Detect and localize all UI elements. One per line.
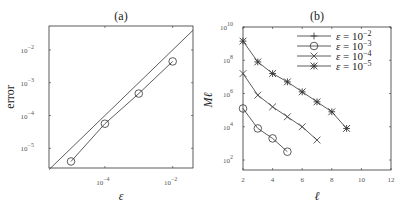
panel-b-x-ticks: 24681012 (241, 27, 395, 184)
x-marker (314, 137, 321, 144)
panel-b-M-vs-level: (b) 24681012 1010108106104102 ε = 10−2ε … (201, 9, 395, 203)
x-tick-label: 10 (358, 176, 366, 184)
panel-a-title: (a) (114, 9, 127, 23)
y-tick-label: 10−5 (21, 142, 34, 153)
y-tick-label: 108 (223, 54, 233, 65)
panel-a-y-label: error (3, 85, 17, 108)
y-tick-label: 1010 (220, 21, 233, 32)
y-tick-label: 10−3 (21, 77, 34, 88)
x-tick-label: 4 (271, 176, 275, 184)
y-tick-label: 102 (223, 154, 233, 165)
panel-a-x-label: ε (119, 189, 124, 203)
panel-a-series (49, 30, 193, 169)
y-tick-label: 104 (223, 121, 233, 132)
y-tick-label: 10−4 (21, 110, 34, 121)
x-tick-label: 10−4 (96, 176, 109, 187)
star-marker (269, 70, 276, 77)
star-marker (240, 38, 247, 45)
x-tick-label: 2 (241, 176, 245, 184)
series-line (49, 30, 193, 169)
x-marker (284, 113, 291, 120)
x-marker (254, 92, 261, 99)
star-marker (343, 125, 350, 132)
series-line (71, 61, 173, 161)
x-tick-label: 8 (330, 176, 334, 184)
panel-a-x-ticks: 10−410−2 (96, 26, 177, 187)
x-tick-label: 6 (300, 176, 304, 184)
panel-a-error-vs-epsilon: (a) 10−410−2 10−210−310−410−5 ε error (3, 9, 193, 203)
circle-marker (284, 148, 292, 156)
star-marker (314, 98, 321, 105)
panel-b-legend: ε = 10−2ε = 10−3ε = 10−4ε = 10−5 (297, 29, 372, 72)
x-marker (299, 123, 306, 130)
legend-label: ε = 10−5 (336, 59, 372, 72)
panel-b-y-label: Mℓ (201, 93, 215, 109)
series-line (243, 41, 347, 128)
panel-b-series (239, 38, 350, 156)
x-marker (269, 103, 276, 110)
y-tick-label: 106 (223, 88, 233, 99)
plus-marker (311, 33, 318, 40)
series-line (243, 108, 287, 151)
x-tick-label: 12 (388, 176, 396, 184)
star-marker (284, 78, 291, 85)
figure: (a) 10−410−2 10−210−310−410−5 ε error (b… (0, 0, 403, 209)
star-marker (328, 108, 335, 115)
star-marker (299, 88, 306, 95)
x-tick-label: 10−2 (164, 176, 177, 187)
y-tick-label: 10−2 (21, 44, 34, 55)
panel-b-title: (b) (310, 9, 324, 23)
star-marker (254, 59, 261, 66)
panel-a-y-ticks: 10−210−310−410−5 (21, 44, 193, 153)
panel-a-axes-frame (49, 26, 193, 168)
star-marker (311, 63, 318, 70)
panel-b-x-label: ℓ (315, 189, 320, 203)
